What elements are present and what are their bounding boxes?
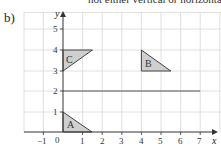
x-tick-label: −1 — [37, 136, 47, 146]
x-tick-label: 7 — [197, 136, 202, 146]
y-tick-label: 4 — [53, 45, 58, 55]
x-tick-label: 3 — [119, 136, 124, 146]
triangle-b-label: B — [145, 58, 152, 69]
y-axis-arrow-icon — [60, 11, 66, 17]
y-axis-label: y — [54, 8, 60, 19]
x-tick-label: 4 — [139, 136, 144, 146]
x-axis-label: x — [211, 135, 217, 146]
triangle-a-label: A — [67, 119, 75, 130]
x-tick-label: 2 — [100, 136, 105, 146]
x-tick-label: 6 — [178, 136, 183, 146]
x-tick-label: 0 — [55, 135, 60, 145]
y-tick-label: 3 — [53, 66, 58, 76]
y-tick-label: 1 — [53, 107, 58, 117]
triangle-c-label: C — [66, 54, 73, 65]
x-tick-label: 1 — [80, 136, 85, 146]
x-tick-label: 5 — [158, 136, 163, 146]
coordinate-graph: A B C x y −1 0 1 2 3 4 5 6 7 1 2 3 4 5 — [0, 0, 221, 148]
y-tick-label: 5 — [53, 24, 58, 34]
y-tick-label: 2 — [53, 86, 58, 96]
